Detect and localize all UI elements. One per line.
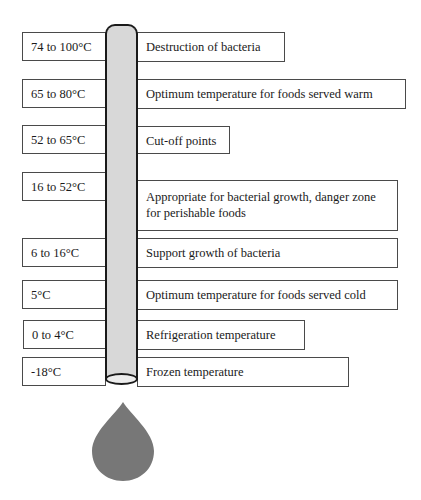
range-label-4: 16 to 52°C xyxy=(22,172,106,201)
range-label-7: 0 to 4°C xyxy=(23,320,106,349)
description-2: Optimum temperature for foods served war… xyxy=(137,79,406,109)
range-label-8: -18°C xyxy=(22,357,106,386)
thermometer-tube-bottom xyxy=(105,373,138,385)
range-label-5: 6 to 16°C xyxy=(22,238,106,267)
description-5: Support growth of bacteria xyxy=(137,238,398,268)
description-3: Cut-off points xyxy=(137,126,230,154)
thermometer-tube xyxy=(105,24,138,380)
range-label-2: 65 to 80°C xyxy=(22,79,106,108)
range-label-3: 52 to 65°C xyxy=(22,125,106,154)
range-label-6: 5°C xyxy=(22,280,106,309)
description-6: Optimum temperature for foods served col… xyxy=(137,280,398,310)
description-4: Appropriate for bacterial growth, danger… xyxy=(137,180,398,231)
description-7: Refrigeration temperature xyxy=(137,320,305,350)
range-label-1: 74 to 100°C xyxy=(22,32,106,61)
description-8: Frozen temperature xyxy=(137,357,349,387)
water-drop-icon xyxy=(92,402,154,482)
description-1: Destruction of bacteria xyxy=(137,32,285,62)
